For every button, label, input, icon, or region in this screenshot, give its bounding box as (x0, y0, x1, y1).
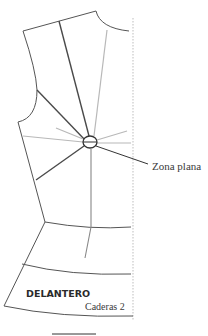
right-guide-upper (97, 131, 127, 140)
piece-name-label: DELANTERO (26, 288, 90, 299)
waist-line (45, 222, 131, 228)
neckline-curve (96, 11, 129, 31)
armhole-curve (18, 31, 37, 122)
size-label: Caderas 2 (85, 301, 125, 312)
hip-line (22, 264, 131, 274)
neck-guide-line (94, 30, 107, 136)
waist-dart-line (85, 149, 91, 258)
flat-zone-leader (96, 146, 148, 164)
shoulder-dart-line (59, 21, 89, 136)
side-guide-line (23, 136, 83, 142)
pattern-diagram: Zona plana DELANTERO Caderas 2 (0, 0, 208, 336)
flat-zone-label: Zona plana (152, 160, 201, 172)
side-dart-line (36, 146, 84, 180)
armhole-dart-line (37, 90, 85, 140)
